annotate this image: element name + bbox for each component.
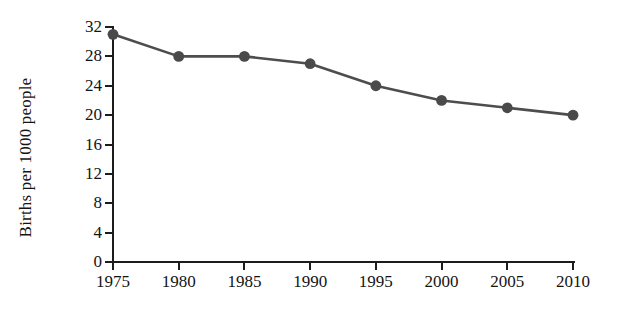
y-axis-tick-label: 4 (60, 224, 102, 241)
y-axis-tick (105, 55, 113, 57)
x-axis-tick (572, 262, 574, 270)
y-axis-tick (105, 173, 113, 175)
x-axis-tick-label: 2000 (407, 272, 477, 291)
y-axis-tick (105, 202, 113, 204)
x-axis-tick (375, 262, 377, 270)
y-axis-tick (105, 26, 113, 28)
data-point (568, 110, 579, 121)
data-point (305, 58, 316, 69)
x-axis-tick (506, 262, 508, 270)
data-point (436, 95, 447, 106)
y-axis-tick-label: 28 (60, 47, 102, 64)
data-point (239, 51, 250, 62)
x-axis-tick (178, 262, 180, 270)
x-axis-tick (112, 262, 114, 270)
y-axis-tick (105, 85, 113, 87)
series-markers (108, 29, 579, 121)
data-point (173, 51, 184, 62)
y-axis-tick (105, 144, 113, 146)
y-axis-tick-label: 12 (60, 165, 102, 182)
x-axis-tick (243, 262, 245, 270)
x-axis-tick-label: 2005 (472, 272, 542, 291)
y-axis-tick-label: 8 (60, 194, 102, 211)
y-axis-tick (105, 232, 113, 234)
y-axis-tick-label: 32 (60, 18, 102, 35)
x-axis-tick (309, 262, 311, 270)
y-axis-tick-label: 0 (60, 253, 102, 270)
data-point (502, 102, 513, 113)
y-axis-title: Births per 1000 people (0, 0, 52, 315)
x-axis-tick-label: 1995 (341, 272, 411, 291)
x-axis-tick-label: 1980 (144, 272, 214, 291)
series-line (113, 34, 573, 115)
x-axis-tick-label: 1990 (275, 272, 345, 291)
data-point (370, 80, 381, 91)
x-axis-tick-label: 1975 (78, 272, 148, 291)
y-axis-tick-label: 24 (60, 77, 102, 94)
x-axis-tick (441, 262, 443, 270)
x-axis-tick-label: 1985 (209, 272, 279, 291)
x-axis-tick-label: 2010 (538, 272, 608, 291)
line-chart: Births per 1000 people 048121620242832 1… (0, 0, 618, 315)
y-axis-tick-label: 16 (60, 136, 102, 153)
y-axis-tick-label: 20 (60, 106, 102, 123)
y-axis-tick (105, 114, 113, 116)
